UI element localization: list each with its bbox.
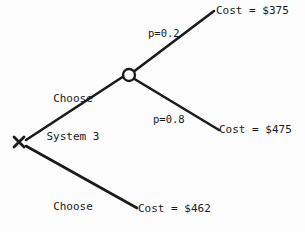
branch-label-choose-system-3-line1: Choose (38, 93, 108, 106)
probability-label-0-2: p=0.2 (148, 27, 180, 40)
outcome-label-cost-375: Cost = $375 (216, 5, 289, 18)
chance-node-circle (123, 69, 135, 81)
outcome-label-cost-462: Cost = $462 (138, 203, 211, 216)
branch-probability-0-2 (135, 11, 215, 71)
branch-label-choose-system-3: Choose System 3 (38, 68, 108, 168)
branch-label-choose-system-3-line2: System 3 (38, 131, 108, 144)
branch-label-choose-system-1: Choose System 1 (38, 176, 108, 232)
probability-label-0-8: p=0.8 (153, 113, 185, 126)
decision-tree-diagram: Choose System 3 Choose System 1 p=0.2 p=… (0, 0, 305, 232)
outcome-label-cost-475: Cost = $475 (219, 124, 292, 137)
branch-label-choose-system-1-line1: Choose (38, 201, 108, 214)
decision-node-x-marker (14, 137, 24, 147)
